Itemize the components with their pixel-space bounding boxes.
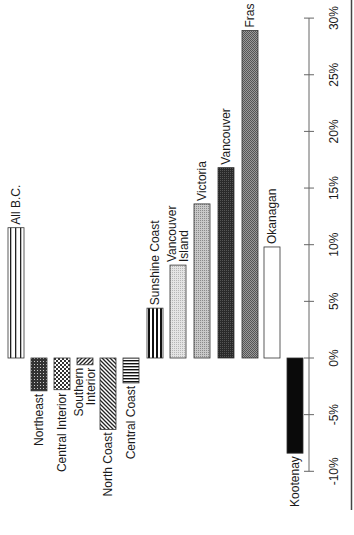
- bar-label-line: Kootenay: [288, 456, 302, 507]
- bar-label-line: Interior: [84, 368, 98, 405]
- bar-north-coast: [100, 358, 116, 429]
- bar-fras: [242, 31, 258, 358]
- tick-label: -10%: [327, 457, 341, 485]
- bar-label: Victoria: [195, 161, 209, 201]
- tick-label: 25%: [327, 62, 341, 86]
- bar-label-line: Northeast: [32, 393, 46, 446]
- tick-label: 30%: [327, 6, 341, 30]
- bar-label-line: Central Interior: [55, 393, 69, 472]
- bar-label-line: Vancouver: [219, 108, 233, 164]
- bar-southern-interior: [77, 358, 93, 365]
- bar-label: Okanagan: [265, 189, 279, 244]
- tick-label: 20%: [327, 119, 341, 143]
- bar-label-line: Island: [177, 230, 191, 262]
- bar-label-line: Victoria: [195, 161, 209, 201]
- bar-label: All B.C.: [9, 185, 23, 225]
- bar-label: Sunshine Coast: [148, 220, 162, 305]
- tick-label: 15%: [327, 176, 341, 200]
- bar-label: Vancouver: [219, 108, 233, 164]
- bar-label-line: All B.C.: [9, 185, 23, 225]
- bar-label: SouthernInterior: [72, 368, 98, 417]
- bar-vancouver-island: [170, 265, 186, 358]
- bar-victoria: [194, 204, 210, 358]
- bar-okanagan: [264, 247, 280, 358]
- tick-label: -5%: [327, 404, 341, 426]
- bar-vancouver: [218, 168, 234, 358]
- bar-label: Fras: [243, 4, 257, 28]
- bar-label-line: Sunshine Coast: [148, 220, 162, 305]
- bar-label: VancouverIsland: [165, 206, 191, 262]
- bar-label-line: Central Coast: [124, 385, 138, 459]
- bar-label-line: North Coast: [101, 432, 115, 497]
- bar-label: Central Coast: [124, 385, 138, 459]
- tick-label: 10%: [327, 232, 341, 256]
- bar-central-interior: [54, 358, 70, 390]
- bar-northeast: [31, 358, 47, 391]
- bar-central-coast: [123, 358, 139, 383]
- bar-label-line: Fras: [243, 4, 257, 28]
- bar-sunshine-coast: [147, 308, 163, 358]
- bar-label: Kootenay: [288, 456, 302, 507]
- bar-label: Northeast: [32, 393, 46, 446]
- bar-label-line: Okanagan: [265, 189, 279, 244]
- bar-label: Central Interior: [55, 393, 69, 472]
- bar-chart: All B.C.NortheastCentral InteriorSouther…: [0, 0, 354, 535]
- bar-label: North Coast: [101, 432, 115, 497]
- bar-all-b-c-: [8, 228, 24, 358]
- tick-label: 5%: [327, 292, 341, 310]
- bar-kootenay: [287, 358, 303, 453]
- tick-label: 0%: [327, 349, 341, 367]
- value-axis: 30%25%20%15%10%5%0%-5%-10%: [304, 6, 341, 486]
